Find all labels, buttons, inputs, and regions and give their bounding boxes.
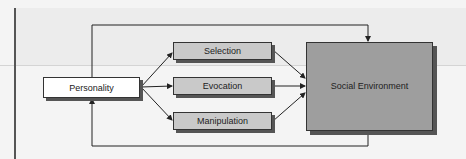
selection-label: Selection: [204, 46, 241, 56]
evocation-label: Evocation: [203, 81, 243, 91]
selection-node: Selection: [173, 42, 272, 60]
manipulation-node: Manipulation: [173, 112, 272, 130]
manipulation-label: Manipulation: [197, 116, 248, 126]
social-environment-node: Social Environment: [306, 42, 433, 131]
social-environment-label: Social Environment: [331, 81, 409, 91]
evocation-node: Evocation: [173, 77, 272, 95]
personality-label: Personality: [69, 83, 114, 93]
personality-node: Personality: [43, 77, 140, 98]
